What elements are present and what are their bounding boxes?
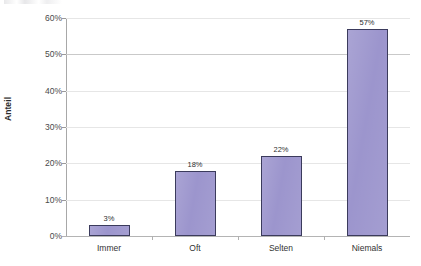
bar-value-label: 3% — [89, 214, 129, 223]
bar-value-label: 18% — [175, 160, 215, 169]
y-axis-tick-label: 60% — [0, 13, 62, 23]
y-axis-tick-label: 0% — [0, 231, 62, 241]
x-axis-line — [62, 236, 410, 237]
bar-sheen — [262, 157, 301, 235]
bar-niemals[interactable] — [347, 29, 388, 236]
y-axis-title: Anteil — [0, 0, 14, 266]
bar-value-label: 57% — [347, 18, 387, 27]
bar-chart: Anteil 0%10%20%30%40%50%60% 3%18%22%57% … — [0, 0, 421, 266]
y-axis-tick-label: 30% — [0, 122, 62, 132]
bar-immer[interactable] — [89, 225, 130, 236]
x-axis-tick-mark — [324, 236, 325, 240]
plot-area: 3%18%22%57% — [66, 18, 410, 236]
x-axis-tick-mark — [152, 236, 153, 240]
x-axis-tick-mark — [238, 236, 239, 240]
bar-oft[interactable] — [175, 171, 216, 236]
y-axis-tick-label: 20% — [0, 158, 62, 168]
x-axis-category-label: Oft — [155, 243, 235, 253]
bar-sheen — [348, 30, 387, 235]
x-axis-category-label: Selten — [241, 243, 321, 253]
bar-sheen — [176, 172, 215, 235]
bar-selten[interactable] — [261, 156, 302, 236]
x-axis-category-label: Immer — [69, 243, 149, 253]
scan-artifact — [4, 0, 62, 4]
bar-value-label: 22% — [261, 145, 301, 154]
y-axis-tick-label: 50% — [0, 49, 62, 59]
bar-sheen — [90, 226, 129, 235]
x-axis-category-label: Niemals — [327, 243, 407, 253]
y-axis-tick-label: 10% — [0, 195, 62, 205]
y-axis-tick-label: 40% — [0, 86, 62, 96]
